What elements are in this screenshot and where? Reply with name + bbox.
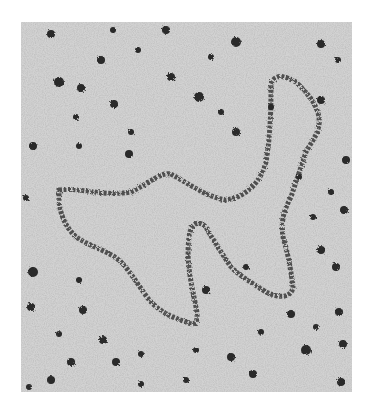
- micrograph-panel: [21, 22, 352, 392]
- micrograph-image: [21, 22, 352, 392]
- grainy-background: [21, 22, 352, 392]
